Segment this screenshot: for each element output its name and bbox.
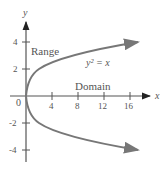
y-tick-label-4: 4 (13, 37, 18, 47)
domain-annotation: Domain (75, 80, 111, 92)
origin-label: 0 (16, 97, 21, 108)
x-axis-label: x (154, 90, 160, 101)
x-tick-label-12: 12 (98, 101, 107, 111)
x-tick-label-4: 4 (49, 101, 54, 111)
parabola-lower-branch (26, 96, 138, 150)
y-tick-label-neg4: -4 (9, 145, 17, 155)
x-tick-label-16: 16 (124, 101, 134, 111)
y-axis-label: y (22, 7, 28, 18)
equation-annotation: y² = x (85, 57, 110, 68)
range-annotation: Range (31, 45, 59, 57)
y-tick-label-2: 2 (13, 64, 18, 74)
x-tick-label-8: 8 (75, 101, 80, 111)
parabola-diagram: y x 0 4 8 12 16 4 2 -2 -4 Range Domain y… (0, 0, 165, 170)
y-tick-label-neg2: -2 (9, 118, 17, 128)
